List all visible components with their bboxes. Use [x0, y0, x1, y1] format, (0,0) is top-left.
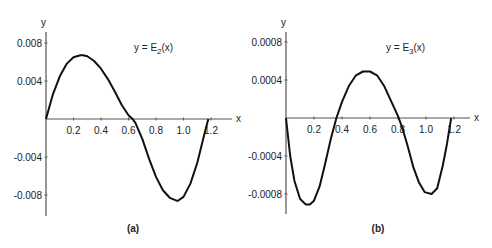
y-tick-label: -0.004 [14, 152, 43, 163]
curve-E3(x) [286, 72, 451, 205]
y-tick-label: -0.008 [14, 190, 43, 201]
chart-panel-a: yx0.20.40.60.81.01.20.0080.004-0.004-0.0… [14, 17, 241, 234]
curve-annotation: y = E3(x) [386, 42, 425, 56]
chart-panel-b: yx0.20.40.60.81.01.20.00080.0004-0.0004-… [248, 17, 479, 234]
y-tick-label: 0.004 [17, 76, 42, 87]
x-tick-label: 1.0 [419, 124, 433, 135]
x-tick-label: 0.4 [94, 125, 108, 136]
y-tick-label: 0.0008 [251, 37, 282, 48]
x-tick-label: 1.0 [177, 125, 191, 136]
y-tick-label: 0.008 [17, 38, 42, 49]
x-axis-label: x [474, 112, 479, 123]
x-tick-label: 0.4 [335, 124, 349, 135]
y-axis-label: y [281, 17, 286, 28]
y-tick-label: -0.0004 [248, 151, 282, 162]
x-tick-label: 0.2 [67, 125, 81, 136]
figure: yx0.20.40.60.81.01.20.0080.004-0.004-0.0… [0, 0, 492, 248]
panel-label: (a) [127, 223, 139, 234]
x-tick-label: 0.6 [363, 124, 377, 135]
y-axis-label: y [41, 17, 46, 28]
x-tick-label: 0.6 [122, 125, 136, 136]
panel-label: (b) [372, 223, 385, 234]
x-tick-label: 0.2 [307, 124, 321, 135]
y-tick-label: 0.0004 [251, 75, 282, 86]
x-axis-label: x [236, 113, 241, 124]
curve-annotation: y = E2(x) [134, 42, 173, 56]
y-tick-label: -0.0008 [248, 189, 282, 200]
x-tick-label: 0.8 [149, 125, 163, 136]
